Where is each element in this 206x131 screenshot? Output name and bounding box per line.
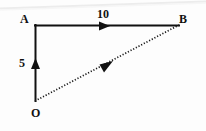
arrowhead-ab-icon [99, 22, 110, 31]
measure-label-horizontal: 10 [97, 8, 109, 20]
vertex-label-a: A [20, 13, 29, 25]
arrowhead-oa-icon [31, 58, 40, 69]
measure-label-vertical: 5 [19, 57, 25, 69]
vector-diagram-figure: A B O 5 10 [0, 0, 206, 131]
arrowhead-ob-icon [100, 61, 114, 73]
vertex-label-b: B [179, 13, 187, 25]
vertex-label-o: O [31, 107, 40, 119]
